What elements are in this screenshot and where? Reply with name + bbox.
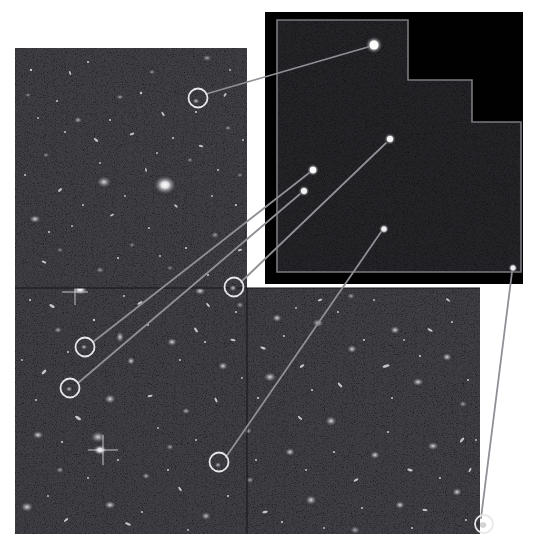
wfpc2-field-inset — [265, 12, 523, 284]
inset-source-2 — [384, 133, 397, 146]
inset-source-3 — [306, 163, 319, 176]
inset-source-1 — [365, 36, 384, 55]
inset-source-5 — [379, 224, 390, 235]
inset-source-4 — [298, 185, 310, 197]
upper-left-tile — [15, 48, 260, 288]
inset-source-6 — [508, 263, 518, 273]
composite-figure — [0, 0, 540, 556]
figure-root — [0, 0, 540, 556]
